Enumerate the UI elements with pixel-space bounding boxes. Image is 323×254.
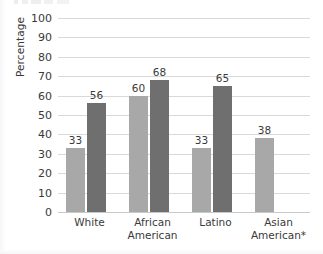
bar: 65 (213, 86, 232, 212)
y-tick-label-100: 100 (31, 12, 52, 25)
x-axis-label: AsianAmerican* (247, 216, 310, 242)
bar: 38 (255, 138, 274, 212)
x-axis-label-line: Latino (184, 216, 247, 229)
y-tick-label-30: 30 (38, 147, 52, 160)
y-tick-label-70: 70 (38, 70, 52, 83)
x-axis-label: AfricanAmerican (121, 216, 184, 242)
bar-value-label: 65 (216, 72, 229, 84)
x-axis-label: Latino (184, 216, 247, 229)
x-axis-label-line: American* (247, 229, 310, 242)
y-tick-label-10: 10 (38, 186, 52, 199)
bar-value-label: 33 (195, 134, 208, 146)
bar: 33 (192, 148, 211, 212)
bar: 56 (87, 103, 106, 212)
bar: 33 (66, 148, 85, 212)
x-axis-category-labels: WhiteAfricanAmericanLatinoAsianAmerican* (58, 216, 310, 252)
y-tick-label-80: 80 (38, 50, 52, 63)
plot-area: 1009080706050403020100 33566068336538 (58, 18, 310, 212)
y-tick-label-40: 40 (38, 128, 52, 141)
x-axis-label-line: White (58, 216, 121, 229)
x-axis-label-line: Asian (247, 216, 310, 229)
bars-layer: 33566068336538 (58, 18, 310, 212)
y-tick-label-60: 60 (38, 89, 52, 102)
bar-value-label: 38 (258, 124, 271, 136)
bar-value-label: 56 (90, 89, 103, 101)
y-tick-label-50: 50 (38, 109, 52, 122)
gridline-0: 0 (58, 212, 310, 213)
scan-edge-left (0, 0, 6, 254)
x-axis-label: White (58, 216, 121, 229)
y-tick-label-20: 20 (38, 167, 52, 180)
x-axis-label-line: American (121, 229, 184, 242)
bar: 68 (150, 80, 169, 212)
bar-value-label: 68 (153, 66, 166, 78)
bar-value-label: 33 (69, 134, 82, 146)
bar: 60 (129, 96, 148, 212)
y-tick-label-0: 0 (45, 206, 52, 219)
x-axis-label-line: African (121, 216, 184, 229)
bar-value-label: 60 (132, 82, 145, 94)
scan-edge-bottom (0, 249, 323, 254)
bar-chart: Percentage 1009080706050403020100 335660… (0, 0, 323, 254)
y-tick-label-90: 90 (38, 31, 52, 44)
y-axis-title: Percentage (13, 2, 27, 92)
